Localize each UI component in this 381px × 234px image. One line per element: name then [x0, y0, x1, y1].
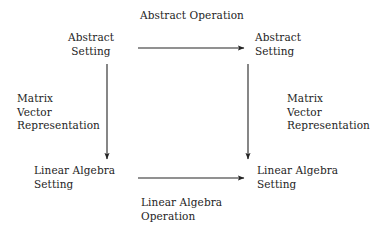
node-linear-algebra-setting-bottom-right: Linear Algebra Setting — [257, 164, 357, 191]
node-abstract-setting-top-right: Abstract Setting — [255, 31, 335, 58]
node-abstract-setting-top-left: Abstract Setting — [55, 31, 127, 58]
commutative-diagram: Abstract Operation Abstract Setting Abst… — [0, 0, 381, 234]
edge-label-matrix-vector-representation-right: Matrix Vector Representation — [287, 92, 381, 133]
edge-label-linear-algebra-operation: Linear Algebra Operation — [141, 196, 261, 223]
node-linear-algebra-setting-bottom-left: Linear Algebra Setting — [34, 164, 128, 191]
edge-label-abstract-operation: Abstract Operation — [128, 9, 256, 23]
edge-label-matrix-vector-representation-left: Matrix Vector Representation — [17, 92, 109, 133]
